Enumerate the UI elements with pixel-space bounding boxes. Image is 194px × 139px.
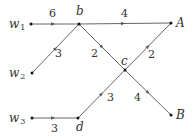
- label-w2: w2: [9, 66, 25, 81]
- label-d: d: [76, 120, 84, 134]
- label-w3: w3: [9, 111, 25, 126]
- nodes: [30, 22, 173, 120]
- arrow-icon: [51, 116, 55, 119]
- weight-w3-d: 3: [51, 122, 58, 135]
- node-b: [78, 23, 81, 26]
- node-w3: [31, 117, 34, 120]
- node-w1: [30, 23, 33, 26]
- label-A: A: [175, 16, 185, 30]
- node-A: [170, 22, 173, 25]
- edges: [31, 23, 171, 118]
- node-c: [124, 69, 127, 72]
- weight-c-A: 2: [148, 48, 155, 61]
- weight-b-A: 4: [121, 7, 128, 20]
- arrowheads: [51, 22, 151, 120]
- label-c: c: [121, 54, 128, 68]
- weight-w2-b: 3: [55, 47, 62, 60]
- weight-d-c: 3: [107, 91, 114, 104]
- node-B: [170, 114, 173, 117]
- label-B: B: [175, 108, 185, 122]
- weight-b-c: 2: [91, 47, 98, 60]
- edge-weights: 6 3 3 4 2 2 3 4: [49, 7, 155, 135]
- weight-c-B: 4: [134, 91, 141, 104]
- network-diagram: w1 w2 w3 b c d A B 6 3 3 4 2 2 3 4: [0, 0, 194, 139]
- label-b: b: [76, 4, 84, 18]
- arrow-icon: [51, 22, 55, 25]
- label-w1: w1: [9, 17, 25, 32]
- node-w2: [31, 72, 34, 75]
- arrow-icon: [121, 22, 125, 25]
- weight-w1-b: 6: [49, 7, 56, 20]
